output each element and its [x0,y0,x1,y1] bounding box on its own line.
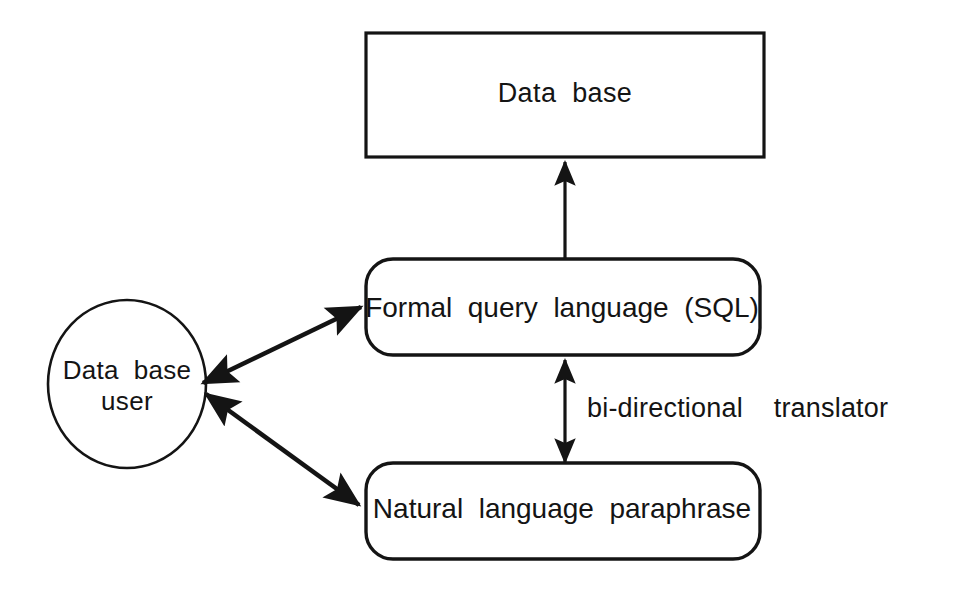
arrow-user-to-formal-query [203,307,361,383]
arrow-user-to-natural-language [206,394,359,505]
database-box-label: Data base [365,78,765,110]
bi-directional-translator-label: bi-directional translator [587,393,947,425]
natural-language-box-label: Natural language paraphrase [362,492,762,525]
database-user-label: Data base user [48,355,206,416]
formal-query-box-label: Formal query language (SQL) [362,291,762,324]
diagram-canvas: Data base Formal query language (SQL) Na… [0,0,968,606]
